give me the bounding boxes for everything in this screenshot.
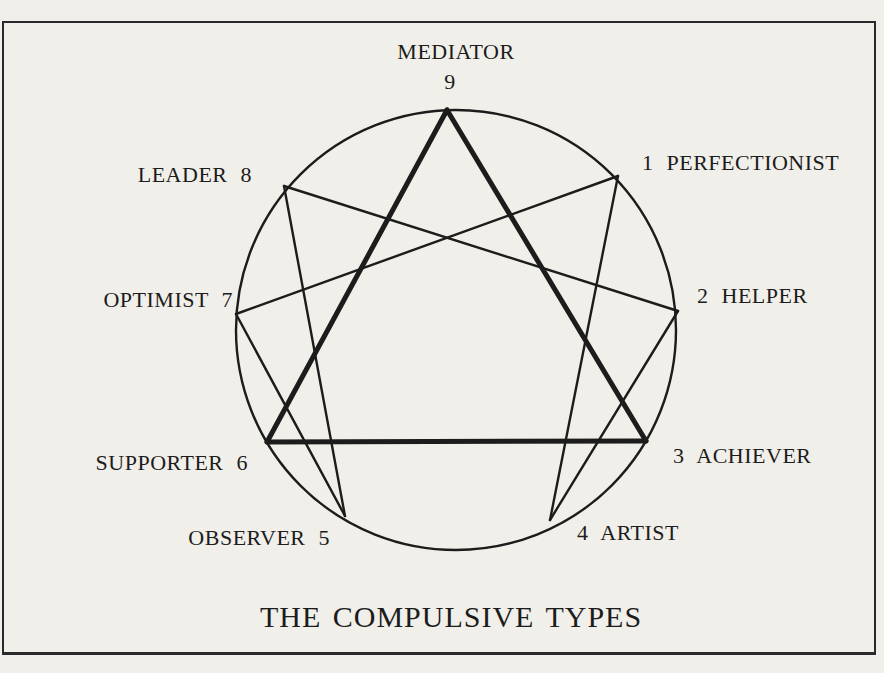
mediator-label: MEDIATOR — [397, 40, 514, 64]
triangle-line-3-6 — [267, 441, 646, 442]
mediator-number: 9 — [444, 70, 456, 94]
observer-label: OBSERVER 5 — [188, 526, 330, 550]
artist-label: 4 ARTIST — [577, 521, 679, 545]
scanned-book-page: MEDIATOR9LEADER 81 PERFECTIONISTOPTIMIST… — [0, 0, 884, 673]
supporter-label: SUPPORTER 6 — [96, 451, 248, 475]
optimist-label: OPTIMIST 7 — [103, 288, 233, 312]
helper-label: 2 HELPER — [697, 284, 808, 308]
triangle-line-9-3 — [447, 110, 646, 441]
hexad-line-2-8 — [284, 186, 678, 311]
perfectionist-label: 1 PERFECTIONIST — [642, 151, 839, 175]
hexad-line-7-1 — [236, 176, 618, 314]
hexad-line-1-4 — [550, 176, 618, 520]
enneagram-figure — [0, 0, 884, 673]
enneagram-circle — [236, 110, 676, 550]
leader-label: LEADER 8 — [138, 163, 252, 187]
triangle-line-6-9 — [267, 110, 447, 442]
achiever-label: 3 ACHIEVER — [673, 444, 812, 468]
diagram-title: THE COMPULSIVE TYPES — [260, 599, 642, 635]
